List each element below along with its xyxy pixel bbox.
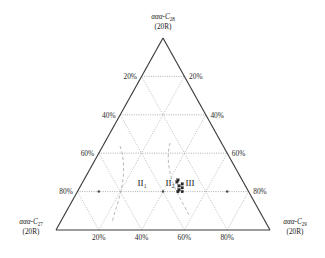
grid-lines: [77, 76, 248, 230]
vertex-label-top: ααα-C28 (20R): [151, 13, 175, 31]
vertex-left-prefix: ααα-C: [19, 218, 38, 226]
tick-left-80: 80%: [59, 187, 73, 196]
svg-text:ααα-C28: ααα-C28: [151, 13, 175, 22]
tick-right-20: 20%: [189, 72, 203, 81]
bottom-axis-tick-labels: 20% 40% 60% 80%: [92, 233, 234, 242]
tick-left-20: 20%: [123, 72, 137, 81]
data-point-marker: [181, 187, 184, 190]
vertex-right-sub: 29: [302, 221, 308, 227]
vertex-left-line2: (20R): [23, 228, 40, 236]
grid-parallel-right-40: [120, 115, 184, 230]
axis-right-edge: [163, 38, 270, 230]
axis-left-edge: [56, 38, 163, 230]
vertex-left-sub: 27: [38, 221, 44, 227]
tick-right-80: 80%: [253, 187, 267, 196]
left-axis-tick-labels: 20% 40% 60% 80%: [59, 72, 137, 196]
vertex-top-prefix: ααα-C: [151, 13, 170, 21]
tick-bottom-20: 20%: [92, 233, 106, 242]
data-point-group: [176, 179, 184, 193]
tick-left-40: 40%: [102, 111, 116, 120]
tick-bottom-60: 60%: [178, 233, 192, 242]
grid-node: [162, 190, 165, 193]
data-point-marker: [177, 190, 180, 193]
tick-right-60: 60%: [232, 149, 246, 158]
data-point-marker: [181, 190, 184, 193]
data-point-marker: [181, 183, 184, 186]
vertex-right-prefix: ααα-C: [283, 218, 302, 226]
data-point-marker: [176, 181, 179, 184]
vertex-right-line2: (20R): [287, 228, 304, 236]
grid-node: [226, 190, 229, 193]
grid-node: [98, 190, 101, 193]
region-label-3: III: [185, 178, 194, 188]
svg-text:ααα-C27: ααα-C27: [19, 218, 43, 227]
vertex-label-left: ααα-C27 (20R): [19, 218, 43, 236]
boundary-curve-left: [112, 146, 124, 223]
tick-left-60: 60%: [81, 149, 95, 158]
ternary-plot-canvas: 20% 40% 60% 80% 20% 40% 60% 80% 20% 40% …: [0, 0, 325, 258]
tick-right-40: 40%: [210, 111, 224, 120]
triangle-axes: [56, 38, 270, 230]
grid-parallel-right-80: [77, 192, 98, 230]
tick-bottom-40: 40%: [135, 233, 149, 242]
data-point-marker: [178, 185, 181, 188]
vertex-label-right: ααα-C29 (20R): [283, 218, 307, 236]
region-label-2-1: II1: [138, 178, 147, 189]
vertex-top-line2: (20R): [155, 23, 172, 31]
right-axis-tick-labels: 20% 40% 60% 80%: [189, 72, 267, 196]
svg-text:ααα-C29: ααα-C29: [283, 218, 307, 227]
region-labels: II1 II2 III: [138, 178, 195, 189]
region-label-2-2: II2: [166, 178, 175, 189]
grid-parallel-left-80: [227, 192, 248, 230]
grid-parallel-left-40: [142, 115, 206, 230]
vertex-top-sub: 28: [170, 16, 176, 22]
ternary-diagram-figure: 20% 40% 60% 80% 20% 40% 60% 80% 20% 40% …: [0, 0, 325, 258]
tick-bottom-80: 80%: [220, 233, 234, 242]
